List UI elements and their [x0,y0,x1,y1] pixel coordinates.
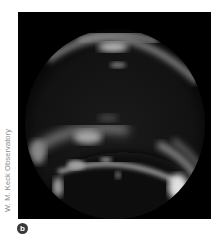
image-credit: W. M. Keck Observatory [3,129,12,212]
panel-label-badge: b [17,223,28,234]
planet-render [18,12,211,219]
neptune-image [18,12,211,219]
